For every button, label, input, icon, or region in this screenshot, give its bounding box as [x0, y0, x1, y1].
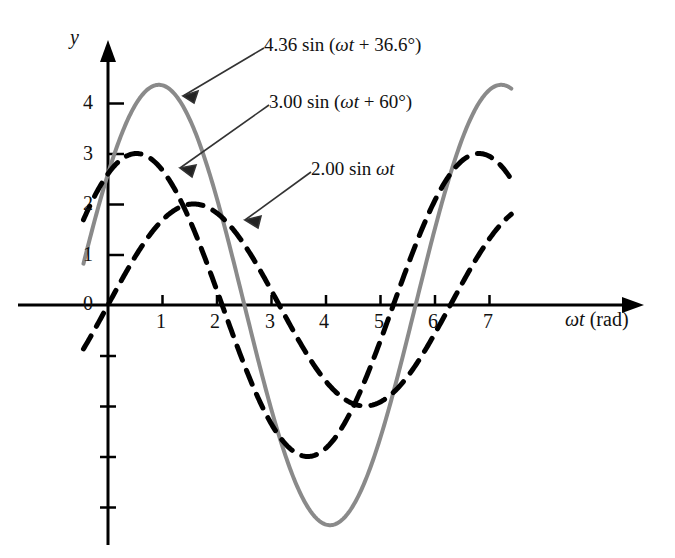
- x-axis-label: ωt (rad): [565, 308, 629, 331]
- x-tick-label-7: 7: [483, 310, 493, 333]
- arrow-head-sum: [183, 91, 198, 103]
- annotation-label-three: 3.00 sin (ωt + 60°): [269, 91, 412, 113]
- arrow-line-sum: [183, 48, 264, 96]
- annotation-arrows: [180, 48, 311, 228]
- annotation-two-arg: ωt: [376, 158, 395, 179]
- x-tick-label-3: 3: [265, 310, 275, 333]
- x-tick-label-6: 6: [428, 310, 438, 333]
- annotation-sum-amplitude: 4.36: [264, 34, 297, 55]
- y-tick-label-3: 3: [83, 142, 93, 165]
- annotation-three-fn: sin: [307, 91, 329, 112]
- arrow-line-three: [180, 105, 269, 168]
- annotation-three-phase: 60°: [379, 91, 406, 112]
- figure-canvas: y 0 1 2 3 4 1 2 3 4 5 6 7 ωt (rad) 4.36 …: [0, 0, 675, 558]
- arrow-head-three: [180, 165, 196, 177]
- axes-group: [18, 40, 644, 545]
- annotation-three-arg: ωt: [340, 91, 359, 112]
- annotation-sum-close: ): [415, 34, 421, 55]
- annotation-label-sum: 4.36 sin (ωt + 36.6°): [264, 34, 421, 56]
- x-axis-label-unit: (rad): [590, 308, 629, 330]
- arrow-line-two: [245, 172, 311, 220]
- annotation-three-amplitude: 3.00: [269, 91, 302, 112]
- annotation-sum-arg: ωt: [335, 34, 354, 55]
- y-tick-label-2: 2: [83, 192, 93, 215]
- annotation-sum-plus: +: [359, 34, 370, 55]
- annotation-sum-fn: sin: [302, 34, 324, 55]
- y-tick-label-1: 1: [83, 243, 93, 266]
- x-axis-label-symbol: ωt: [565, 308, 585, 330]
- x-tick-label-1: 1: [156, 310, 166, 333]
- y-axis-arrowhead: [100, 40, 116, 62]
- annotation-three-plus: +: [364, 91, 375, 112]
- annotation-sum-phase: 36.6°: [374, 34, 415, 55]
- y-axis-label: y: [70, 26, 79, 49]
- annotation-two-amplitude: 2.00: [311, 158, 344, 179]
- annotation-label-two: 2.00 sin ωt: [311, 158, 395, 180]
- annotation-three-close: ): [406, 91, 412, 112]
- y-tick-label-0: 0: [83, 292, 93, 315]
- x-tick-label-4: 4: [319, 310, 329, 333]
- plot-area: [0, 0, 675, 558]
- x-tick-label-5: 5: [374, 310, 384, 333]
- annotation-two-fn: sin: [349, 158, 371, 179]
- x-tick-label-2: 2: [210, 310, 220, 333]
- y-tick-label-4: 4: [83, 91, 93, 114]
